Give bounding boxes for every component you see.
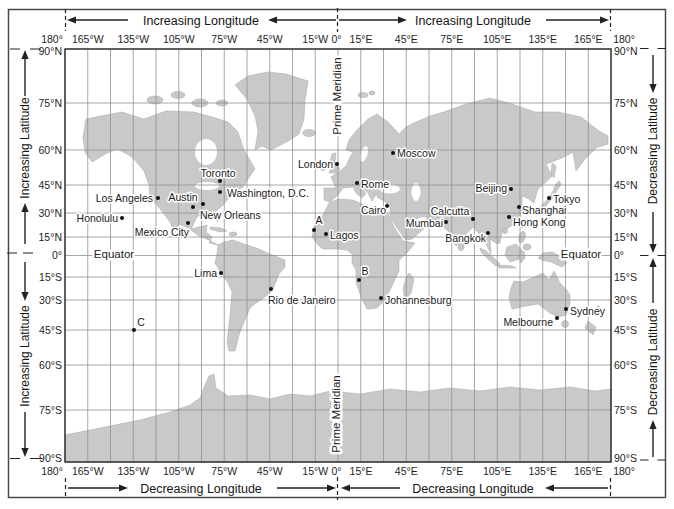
longitude-tick-label: 0° (331, 33, 341, 45)
longitude-tick-label: 180° (41, 33, 63, 45)
longitude-tick-label: 45°W (257, 33, 283, 45)
longitude-tick-label: 180° (41, 465, 63, 477)
latitude-tick-label: 75°S (39, 404, 62, 416)
caspian-sea (412, 183, 421, 201)
right-axis-annotation: Decreasing Latitude Decreasing Latitude (640, 49, 666, 461)
city-label: Shanghai (522, 204, 566, 216)
iceland (303, 130, 316, 137)
longitude-tick-label: 135°E (528, 33, 557, 45)
arctic-island (171, 92, 185, 99)
longitude-tick-label: 75°W (211, 465, 237, 477)
city-label: Moscow (397, 147, 436, 159)
point-marker (312, 228, 316, 232)
longitude-tick-label: 45°E (395, 465, 418, 477)
latitude-tick-label: 60°N (39, 144, 62, 156)
latitude-tick-label: 30°N (39, 207, 62, 219)
city-marker (517, 205, 521, 209)
longitude-tick-label: 15°E (350, 465, 373, 477)
longitude-tick-label: 45°E (395, 33, 418, 45)
city-marker (509, 187, 513, 191)
city-marker (201, 202, 205, 206)
latitude-tick-label: 30°S (39, 294, 62, 306)
latitude-tick-label: 15°N (39, 231, 62, 243)
latitude-tick-label: 90°N (614, 45, 637, 57)
left-latitude-tick-labels: 90°N75°N60°N45°N30°N15°N0°15°S30°S45°S60… (39, 45, 62, 464)
right-axis-title-south: Decreasing Latitude (646, 308, 660, 415)
point-label: A (315, 214, 322, 226)
longitude-tick-label: 165°W (72, 33, 104, 45)
latitude-tick-label: 30°N (614, 207, 637, 219)
latitude-longitude-world-map-figure: Equator Equator Prime Meridian Prime Mer… (0, 0, 674, 509)
city-label: Cairo (361, 204, 386, 216)
top-axis-title-east: Increasing Longitude (415, 14, 531, 28)
longitude-tick-label: 135°W (117, 465, 149, 477)
longitude-tick-label: 180° (613, 465, 635, 477)
top-longitude-tick-labels: 180°165°W135°W105°W75°W45°W15°W0°15°E45°… (41, 33, 635, 45)
right-latitude-tick-labels: 90°N75°N60°N45°N30°N15°N0°15°S30°S45°S60… (614, 45, 637, 464)
longitude-tick-label: 105°E (483, 465, 512, 477)
up-arrowhead-icon (649, 258, 656, 267)
city-marker (218, 179, 222, 183)
city-label: Johannesburg (385, 294, 452, 306)
longitude-tick-label: 75°E (440, 465, 463, 477)
latitude-tick-label: 30°S (614, 294, 637, 306)
point-label: B (361, 265, 368, 277)
longitude-tick-label: 180° (613, 33, 635, 45)
city-marker (471, 217, 475, 221)
latitude-tick-label: 90°S (39, 452, 62, 464)
city-label: Honolulu (77, 212, 119, 224)
left-arrowhead-icon (67, 16, 76, 23)
top-axis-title-west: Increasing Longitude (143, 14, 259, 28)
latitude-tick-label: 90°S (614, 452, 637, 464)
city-marker (391, 151, 395, 155)
longitude-tick-label: 165°E (574, 33, 603, 45)
bottom-longitude-tick-labels: 180°165°W135°W105°W75°W45°W15°W0°15°E45°… (41, 465, 635, 477)
right-arrowhead-icon (398, 16, 407, 23)
city-label: Rio de Janeiro (268, 294, 336, 306)
city-label: Lima (194, 267, 217, 279)
city-marker (269, 287, 273, 291)
longitude-tick-label: 165°W (72, 465, 104, 477)
mindanao (523, 244, 531, 250)
latitude-tick-label: 45°N (614, 179, 637, 191)
city-marker (547, 196, 551, 200)
down-arrowhead-icon (21, 292, 28, 301)
down-arrowhead-icon (649, 84, 656, 93)
city-label: Beijing (475, 182, 507, 194)
latitude-tick-label: 75°N (39, 97, 62, 109)
city-label: Sydney (570, 305, 606, 317)
longitude-tick-label: 15°W (302, 465, 328, 477)
latitude-tick-label: 0° (52, 249, 62, 261)
left-arrowhead-icon (341, 484, 350, 491)
great-lakes (195, 182, 219, 190)
left-axis-annotation: Increasing Latitude Increasing Latitude (7, 49, 41, 459)
city-marker (218, 190, 222, 194)
down-arrowhead-icon (649, 244, 656, 253)
map-figure-canvas: Equator Equator Prime Meridian Prime Mer… (0, 0, 674, 509)
longitude-tick-label: 75°E (440, 33, 463, 45)
left-arrowhead-icon (545, 484, 554, 491)
city-marker (120, 216, 124, 220)
longitude-tick-label: 15°E (350, 33, 373, 45)
right-arrowhead-icon (600, 16, 609, 23)
right-arrowhead-icon (327, 484, 336, 491)
svalbard (358, 93, 368, 98)
city-label: Calcutta (431, 205, 470, 217)
left-arrowhead-icon (268, 16, 277, 23)
prime-meridian-label-bottom: Prime Meridian (330, 375, 342, 452)
longitude-tick-label: 105°E (483, 33, 512, 45)
city-label: Mexico City (135, 226, 190, 238)
right-arrowhead-icon (119, 484, 128, 491)
left-axis-title-north: Increasing Latitude (18, 97, 32, 199)
longitude-tick-label: 45°W (257, 465, 283, 477)
longitude-tick-label: 75°W (211, 33, 237, 45)
bottom-axis-title-east: Decreasing Longitude (412, 482, 534, 496)
city-label: Rome (361, 178, 389, 190)
city-label: Los Angeles (96, 192, 153, 204)
prime-meridian-label-top: Prime Meridian (331, 57, 343, 134)
city-marker (324, 232, 328, 236)
city-label: Hong Kong (513, 216, 566, 228)
city-marker (335, 162, 339, 166)
longitude-tick-label: 165°E (574, 465, 603, 477)
point-marker (132, 328, 136, 332)
